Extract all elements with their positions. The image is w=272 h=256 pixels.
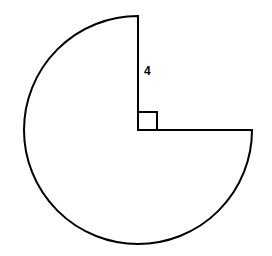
diagram-canvas: 4 <box>0 0 272 256</box>
sector-diagram: 4 <box>0 0 272 256</box>
radius-label: 4 <box>144 64 151 78</box>
right-angle-marker <box>138 112 157 130</box>
